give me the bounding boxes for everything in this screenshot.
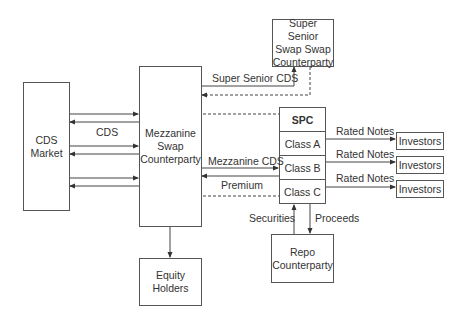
mezzanine-swap-counterparty-node: Mezzanine Swap Counterparty	[139, 66, 202, 227]
equity-holders-node: Equity Holders	[139, 258, 202, 306]
securities-label: Securities	[249, 212, 295, 224]
rated-notes-label-a: Rated Notes	[336, 125, 394, 137]
spc-title: SPC	[280, 108, 325, 132]
spc-node: SPC Class A Class B Class C	[279, 107, 326, 204]
premium-label: Premium	[221, 179, 263, 191]
investors-node-a: Investors	[396, 132, 444, 150]
super-senior-counterparty-node: Super Senior Swap Swap Counterparty	[272, 19, 334, 67]
spc-class-a: Class A	[280, 132, 325, 156]
investors-node-c: Investors	[396, 180, 444, 198]
investors-node-b: Investors	[396, 156, 444, 174]
rated-notes-label-c: Rated Notes	[336, 172, 394, 184]
rated-notes-label-b: Rated Notes	[336, 148, 394, 160]
mezzanine-cds-label: Mezzanine CDS	[208, 155, 284, 167]
repo-counterparty-node: Repo Counterparty	[271, 234, 334, 283]
spc-class-c: Class C	[280, 180, 325, 204]
super-senior-cds-label: Super Senior CDS	[212, 72, 298, 84]
proceeds-label: Proceeds	[315, 212, 359, 224]
cds-label: CDS	[96, 126, 118, 138]
spc-class-b: Class B	[280, 156, 325, 180]
cds-market-node: CDS Market	[23, 82, 70, 211]
